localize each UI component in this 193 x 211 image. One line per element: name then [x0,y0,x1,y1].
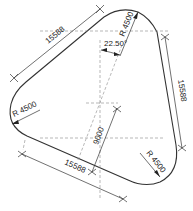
dim-label-height: 9000 [91,125,106,145]
radius-leaders [12,12,160,177]
dim-top-left [10,5,104,82]
dim-label-top-left: 15588 [44,24,67,45]
construction-lines [23,31,170,200]
radius-label-left: R 4500 [11,99,39,119]
radius-arrows [12,12,160,177]
dim-label-bottom: 15588 [63,158,87,175]
angle-label: 22.50° [104,39,127,48]
dim-label-right: 15588 [176,79,188,103]
technical-drawing: 15588 15588 15588 9000 R 4500 R 4500 R 4… [0,0,193,211]
dim-bottom [18,151,127,202]
